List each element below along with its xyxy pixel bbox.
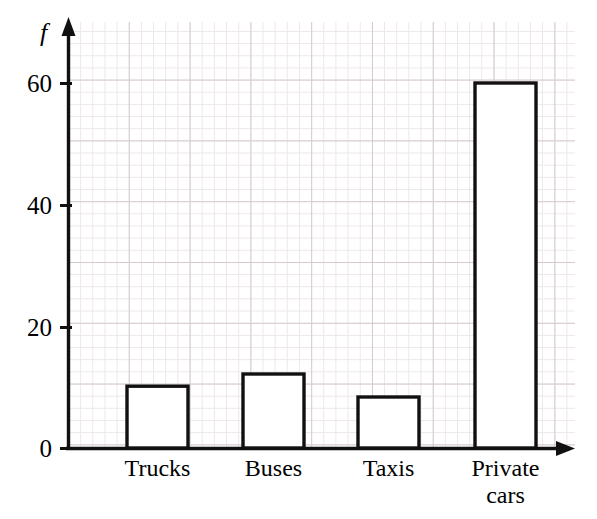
arrow-up-icon xyxy=(62,17,76,36)
bar-series xyxy=(127,83,536,448)
bar-buses[interactable] xyxy=(243,374,304,448)
x-tick-label-private-cars: Private cars xyxy=(445,455,566,509)
y-tick-label-40: 40 xyxy=(27,193,52,218)
bar-taxis[interactable] xyxy=(358,397,419,448)
x-tick-label-trucks: Trucks xyxy=(97,455,218,482)
x-tick-label-buses: Buses xyxy=(213,455,334,482)
y-tick-label-60: 60 xyxy=(27,71,52,96)
y-tick-label-20: 20 xyxy=(27,315,52,340)
bar-trucks[interactable] xyxy=(127,386,188,448)
y-tick-labels: 60 40 20 0 xyxy=(0,0,52,519)
bar-private-cars[interactable] xyxy=(475,83,536,448)
chart-plot-area xyxy=(0,0,597,519)
bar-chart: f 60 40 20 0 Trucks Buses Taxis Private … xyxy=(0,0,597,519)
y-axis xyxy=(62,17,76,448)
x-tick-label-taxis: Taxis xyxy=(328,455,449,482)
y-tick-label-0: 0 xyxy=(40,436,53,461)
arrow-right-icon xyxy=(556,441,575,456)
